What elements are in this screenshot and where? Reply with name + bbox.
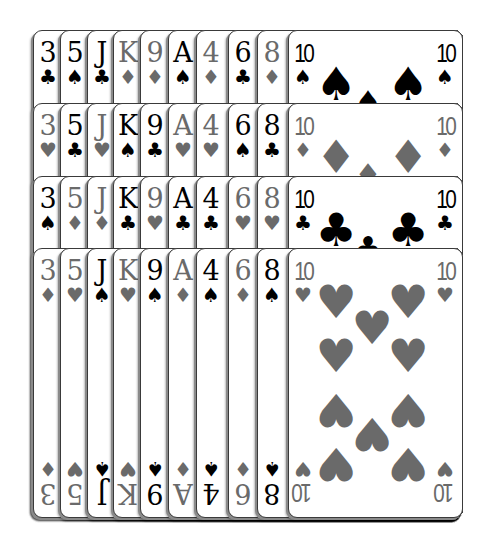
heart-icon: ♥ (434, 285, 456, 305)
diamond-icon: ♦ (232, 459, 254, 479)
card-index-top: 5♥ (64, 257, 86, 305)
card-index-top: 3♦ (37, 257, 59, 305)
diamond-icon: ♦ (64, 213, 86, 233)
card-rank: 10 (294, 257, 312, 285)
spade-icon: ♠ (144, 459, 166, 479)
card-rank: K (117, 479, 139, 507)
card-index-top: 9♦ (144, 39, 166, 87)
card-index-bottom: 9♠ (144, 459, 166, 507)
card-rank: A (172, 39, 194, 67)
club-icon: ♣ (434, 213, 456, 233)
card-rank: 5 (64, 257, 86, 285)
card-rank: 6 (232, 112, 254, 140)
card-rank: K (117, 39, 139, 67)
heart-icon: ♥ (434, 459, 456, 479)
card-rank: 4 (200, 39, 222, 67)
card-index-top: 8♥ (261, 185, 283, 233)
card-rank: A (172, 479, 194, 507)
card-index-top: 8♦ (261, 39, 283, 87)
heart-icon: ♥ (91, 140, 113, 160)
card-index-bottom: A♦ (172, 459, 194, 507)
card-index-top: K♥ (117, 257, 139, 305)
card-rank: 4 (200, 479, 222, 507)
diamond-icon: ♦ (383, 134, 433, 180)
club-icon: ♣ (261, 140, 283, 160)
card-rank: K (117, 257, 139, 285)
card-index-top: 3♥ (37, 112, 59, 160)
card-index-top: A♣ (172, 185, 194, 233)
card-rank: J (91, 257, 113, 285)
heart-icon: ♥ (200, 140, 222, 160)
card-index-top: 9♣ (144, 112, 166, 160)
card-rank: 10 (436, 185, 454, 213)
card-index-top: 6♥ (232, 185, 254, 233)
card-10-of-hearts[interactable]: 10♥10♥10♥10♥♥♥♥♥♥♥♥♥♥♥ (288, 248, 463, 518)
card-index-top: 4♥ (200, 112, 222, 160)
diamond-icon: ♦ (117, 67, 139, 87)
diamond-icon: ♦ (144, 67, 166, 87)
card-rank: 8 (261, 185, 283, 213)
card-rank: A (172, 257, 194, 285)
card-rank: 9 (144, 39, 166, 67)
card-index-top: K♦ (117, 39, 139, 87)
card-rank: 10 (294, 39, 312, 67)
card-rank: J (91, 479, 113, 507)
diamond-icon: ♦ (261, 67, 283, 87)
card-rank: 3 (37, 39, 59, 67)
spade-icon: ♠ (232, 140, 254, 160)
card-index-top: 4♠ (200, 257, 222, 305)
diamond-icon: ♦ (232, 285, 254, 305)
card-index-top: 9♠ (144, 257, 166, 305)
spade-icon: ♠ (144, 285, 166, 305)
club-icon: ♣ (200, 213, 222, 233)
spade-icon: ♠ (200, 285, 222, 305)
spade-icon: ♠ (37, 213, 59, 233)
card-index-top: 4♣ (200, 185, 222, 233)
card-rank: 5 (64, 479, 86, 507)
card-rank: 4 (200, 112, 222, 140)
card-index-top: 3♣ (37, 39, 59, 87)
club-icon: ♣ (64, 140, 86, 160)
card-rank: J (91, 112, 113, 140)
heart-icon: ♥ (261, 213, 283, 233)
club-icon: ♣ (172, 213, 194, 233)
card-rank: K (117, 112, 139, 140)
card-rank: 10 (294, 185, 312, 213)
heart-icon: ♥ (37, 140, 59, 160)
card-rank: 6 (232, 185, 254, 213)
card-index-top: 5♠ (64, 39, 86, 87)
card-index-bottom: 3♦ (37, 459, 59, 507)
card-rank: 9 (144, 479, 166, 507)
spade-icon: ♠ (91, 285, 113, 305)
card-index-top: A♠ (172, 39, 194, 87)
spade-icon: ♠ (383, 61, 433, 107)
heart-icon: ♥ (383, 441, 433, 487)
card-index-top-right: 10♥ (434, 257, 456, 305)
card-rank: 8 (261, 257, 283, 285)
card-index-bottom: 5♥ (64, 459, 86, 507)
card-rank: J (91, 39, 113, 67)
heart-icon: ♥ (144, 213, 166, 233)
card-index-top: 8♣ (261, 112, 283, 160)
card-index-top: 4♦ (200, 39, 222, 87)
card-rank: J (91, 185, 113, 213)
heart-icon: ♥ (64, 285, 86, 305)
club-icon: ♣ (232, 67, 254, 87)
card-rank: 9 (144, 112, 166, 140)
heart-icon: ♥ (311, 333, 361, 379)
club-icon: ♣ (117, 213, 139, 233)
card-rank: 4 (200, 257, 222, 285)
card-index-bottom: 8♠ (261, 459, 283, 507)
heart-icon: ♥ (383, 333, 433, 379)
card-index-top-right: 10♣ (434, 185, 456, 233)
card-rank: 10 (436, 257, 454, 285)
card-rank: 5 (64, 185, 86, 213)
card-index-top: J♠ (91, 257, 113, 305)
diamond-icon: ♦ (434, 140, 456, 160)
card-rank: 10 (294, 479, 312, 507)
card-index-top: 5♦ (64, 185, 86, 233)
spade-icon: ♠ (261, 285, 283, 305)
club-icon: ♣ (91, 67, 113, 87)
card-rank: 5 (64, 112, 86, 140)
heart-icon: ♥ (172, 140, 194, 160)
